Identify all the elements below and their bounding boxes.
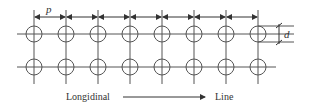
direction-label-left: Longidinal <box>66 91 110 102</box>
hole-grid-diagram: p d Longidinal Line <box>0 0 310 107</box>
pitch-label: p <box>45 3 52 15</box>
diameter-label: d <box>284 28 290 40</box>
direction-label-right: Line <box>215 91 234 102</box>
vertical-grid-lines <box>34 10 258 84</box>
